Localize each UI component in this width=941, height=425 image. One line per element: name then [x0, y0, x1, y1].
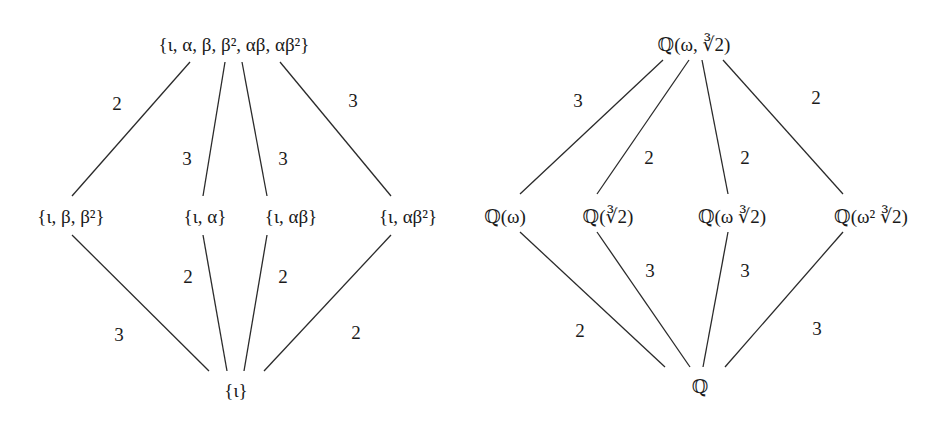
edge-left-m1-bottom — [72, 235, 209, 371]
left-label-top-m3: 3 — [278, 149, 288, 168]
edge-right-m3-bottom — [703, 232, 728, 367]
edge-left-top-m3 — [242, 62, 267, 196]
right-label-m2-bottom: 3 — [645, 261, 655, 280]
right-node-m2: ℚ(∛2) — [583, 207, 634, 226]
edge-left-m4-bottom — [264, 235, 391, 371]
right-node-top: ℚ(ω, ∛2) — [658, 35, 731, 54]
right-node-m1: ℚ(ω) — [484, 207, 526, 226]
edge-right-top-m2 — [597, 60, 689, 194]
edge-left-m2-bottom — [203, 235, 227, 371]
galois-correspondence-diagram: {ι, α, β, β², αβ, αβ²} {ι, β, β²} {ι, α}… — [0, 0, 941, 425]
left-label-m4-bottom: 2 — [351, 323, 361, 342]
left-label-m3-bottom: 2 — [278, 267, 288, 286]
edge-right-top-m4 — [723, 60, 843, 194]
right-node-m3: ℚ(ω ∛2) — [698, 207, 766, 226]
right-node-bottom: ℚ — [692, 377, 709, 396]
left-label-top-m1: 2 — [112, 94, 122, 113]
left-label-m1-bottom: 3 — [114, 325, 124, 344]
edge-left-top-m4 — [280, 62, 391, 196]
right-label-top-m2: 2 — [644, 148, 654, 167]
right-label-m3-bottom: 3 — [740, 261, 750, 280]
edge-right-top-m1 — [520, 60, 663, 194]
left-node-m4: {ι, αβ²} — [379, 207, 437, 226]
right-label-top-m3: 2 — [740, 148, 750, 167]
left-node-m3: {ι, αβ} — [265, 207, 317, 226]
right-label-m1-bottom: 2 — [575, 321, 585, 340]
edge-right-top-m3 — [702, 60, 728, 194]
left-node-m1: {ι, β, β²} — [37, 207, 104, 226]
right-label-top-m4: 2 — [811, 88, 821, 107]
edges-layer — [0, 0, 941, 425]
left-node-bottom: {ι} — [224, 381, 247, 400]
edge-right-m4-bottom — [725, 232, 843, 367]
edge-left-m3-bottom — [244, 235, 267, 371]
left-label-m2-bottom: 2 — [183, 267, 193, 286]
right-label-top-m1: 3 — [573, 91, 583, 110]
right-node-m4: ℚ(ω² ∛2) — [834, 207, 908, 226]
left-node-top: {ι, α, β, β², αβ, αβ²} — [159, 35, 310, 54]
edge-left-top-m2 — [203, 62, 225, 196]
left-label-top-m4: 3 — [348, 91, 358, 110]
left-node-m2: {ι, α} — [184, 207, 227, 226]
right-label-m4-bottom: 3 — [812, 319, 822, 338]
edge-left-top-m1 — [72, 62, 190, 196]
left-label-top-m2: 3 — [182, 149, 192, 168]
